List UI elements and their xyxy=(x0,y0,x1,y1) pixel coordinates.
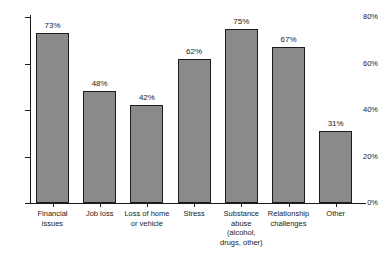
y-tick-label: 80% xyxy=(352,13,378,21)
bar-value-label: 75% xyxy=(221,18,261,26)
y-tick-label: 40% xyxy=(352,106,378,114)
bar-value-label: 42% xyxy=(127,94,167,102)
bar xyxy=(178,59,211,203)
bar-value-label: 31% xyxy=(316,120,356,128)
bar-chart: 0%20%40%60%80% 73%Financial issues48%Job… xyxy=(0,0,378,269)
y-tick-label: 0% xyxy=(352,199,378,207)
x-tick-mark xyxy=(147,203,148,207)
x-axis-line xyxy=(30,203,366,204)
bar-value-label: 62% xyxy=(174,48,214,56)
x-tick-mark xyxy=(100,203,101,207)
bar xyxy=(225,29,258,203)
y-tick-mark xyxy=(25,110,30,111)
y-tick-mark xyxy=(25,17,30,18)
y-tick-mark xyxy=(25,157,30,158)
x-tick-mark xyxy=(241,203,242,207)
bar xyxy=(319,131,352,203)
bar xyxy=(130,105,163,203)
bar xyxy=(36,33,69,203)
bar xyxy=(83,91,116,203)
bar-value-label: 48% xyxy=(80,80,120,88)
x-tick-mark xyxy=(194,203,195,207)
y-tick-label: 60% xyxy=(352,60,378,68)
y-tick-label: 20% xyxy=(352,153,378,161)
y-tick-mark xyxy=(25,64,30,65)
bar-value-label: 73% xyxy=(33,22,73,30)
x-tick-mark xyxy=(53,203,54,207)
y-axis-line xyxy=(30,15,31,204)
bar-value-label: 67% xyxy=(269,36,309,44)
bar xyxy=(272,47,305,203)
x-tick-mark xyxy=(336,203,337,207)
x-category-label: Other xyxy=(308,209,364,219)
x-tick-mark xyxy=(289,203,290,207)
y-tick-mark xyxy=(25,203,30,204)
